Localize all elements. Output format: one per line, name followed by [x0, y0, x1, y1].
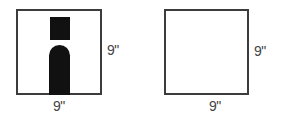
right-figure-bottom-dimension-label: 9": [209, 99, 221, 113]
black-arch-shape: [49, 45, 70, 95]
right-square-figure: [164, 9, 249, 95]
black-square-shape: [50, 17, 70, 40]
left-figure-side-dimension-label: 9": [107, 43, 119, 57]
left-figure-bottom-dimension-label: 9": [53, 99, 65, 113]
left-square-figure: [16, 9, 102, 95]
right-figure-side-dimension-label: 9": [254, 44, 266, 58]
